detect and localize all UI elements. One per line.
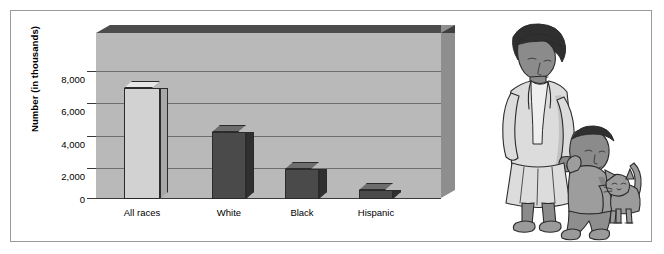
y-tick-2000 — [87, 168, 96, 169]
y-tick-label-0: 0 — [43, 195, 85, 205]
bar-white-face — [212, 132, 246, 199]
bar-black[interactable] — [285, 162, 319, 199]
bar-black-face — [285, 169, 319, 199]
figure-frame: Number (in thousands) 8,000 6,000 4,000 … — [10, 10, 652, 242]
woman-child-cat-illustration: .ln{fill:none;stroke:#2b2b2b;stroke-widt… — [466, 11, 653, 243]
y-tick-0 — [87, 198, 96, 199]
y-tick-6000 — [87, 103, 96, 104]
bar-white-top — [212, 125, 246, 132]
y-tick-label-4000: 4,000 — [43, 140, 85, 150]
bar-all-races-side — [160, 88, 168, 199]
gridline-8000 — [96, 71, 441, 72]
y-tick-label-2000: 2,000 — [43, 172, 85, 182]
bar-chart: Number (in thousands) 8,000 6,000 4,000 … — [11, 11, 466, 243]
plot-wall-top-edge — [96, 25, 441, 33]
x-tick-label-hispanic: Hispanic — [340, 207, 412, 218]
bar-white-side — [246, 132, 254, 199]
bar-black-top — [285, 162, 319, 169]
y-tick-4000 — [87, 136, 96, 137]
x-tick-label-white: White — [195, 207, 263, 218]
bar-all-races[interactable] — [124, 81, 160, 199]
bar-hispanic[interactable] — [359, 183, 393, 199]
woman-figure — [503, 24, 576, 232]
y-tick-label-6000: 6,000 — [43, 107, 85, 117]
figure-container: Number (in thousands) 8,000 6,000 4,000 … — [0, 0, 664, 254]
x-tick-label-black: Black — [268, 207, 336, 218]
bar-white[interactable] — [212, 125, 246, 199]
bar-all-races-face — [124, 88, 160, 199]
bar-hispanic-face — [359, 190, 393, 199]
y-tick-label-8000: 8,000 — [43, 75, 85, 85]
x-tick-label-all-races: All races — [107, 207, 177, 218]
bar-all-races-top — [124, 81, 160, 88]
y-axis-tick-labels: 8,000 6,000 4,000 2,000 0 — [39, 11, 85, 243]
bar-hispanic-top — [359, 183, 393, 190]
plot-wall-right-side — [441, 25, 455, 198]
y-tick-8000 — [87, 71, 96, 72]
